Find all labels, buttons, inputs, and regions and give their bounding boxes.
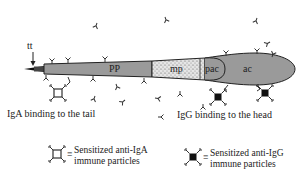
igg-particle-bound-1 <box>209 88 227 106</box>
principal-piece <box>44 61 152 77</box>
caption-iga-binding: IgA binding to the tail <box>7 108 95 119</box>
label-tail-tip: tt <box>27 40 33 51</box>
legend-igg-line2: immune particles <box>210 159 276 170</box>
label-acrosome: ac <box>243 64 252 74</box>
tail-tip <box>24 52 44 72</box>
label-principal-piece: PP <box>109 64 120 74</box>
label-post-acrosomal: pac <box>205 64 219 74</box>
caption-igg-binding: IgG binding to the head <box>177 109 272 120</box>
iga-particle-bound <box>49 84 67 102</box>
legend-igg-line1: Sensitized anti-IgG <box>210 148 284 159</box>
filled-dot-particle-icon <box>184 148 202 166</box>
equiv-symbol: ≡ <box>67 149 72 160</box>
legend-iga-line1: Sensitized anti-IgA <box>74 145 148 156</box>
label-midpiece: mp <box>170 64 183 74</box>
equiv-symbol: ≡ <box>203 152 208 163</box>
igg-particle-bound-2 <box>256 84 274 102</box>
open-ring-particle-icon <box>48 145 66 163</box>
legend-iga-line2: immune particles <box>74 156 140 167</box>
arrow-down-icon <box>31 61 36 66</box>
